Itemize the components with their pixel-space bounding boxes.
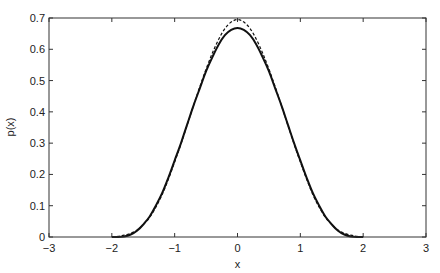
x-axis-label: x — [235, 258, 241, 270]
y-tick-label: 0.1 — [30, 200, 45, 212]
x-tick-label: 3 — [423, 242, 429, 254]
y-axis-label: p(x) — [4, 118, 16, 137]
x-tick-label: 1 — [297, 242, 303, 254]
x-tick-label: 2 — [360, 242, 366, 254]
y-tick-label: 0.4 — [30, 106, 45, 118]
x-tick-label: −2 — [106, 242, 119, 254]
y-tick-label: 0.7 — [30, 12, 45, 24]
chart: 00.10.20.30.40.50.60.7 −3−2−10123 x p(x) — [0, 0, 440, 273]
x-tick-label: −1 — [168, 242, 181, 254]
y-tick-label: 0.3 — [30, 137, 45, 149]
x-tick-label: 0 — [234, 242, 240, 254]
y-tick-label: 0.6 — [30, 43, 45, 55]
y-tick-label: 0.2 — [30, 168, 45, 180]
y-tick-label: 0.5 — [30, 75, 45, 87]
x-tick-label: −3 — [43, 242, 56, 254]
